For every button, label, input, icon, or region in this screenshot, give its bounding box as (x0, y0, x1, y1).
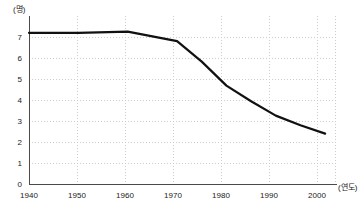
line-chart: (명) (연도) 7 6 5 4 3 2 1 0 1940 1950 1960 … (0, 0, 363, 212)
plot-area (0, 0, 363, 212)
grid-lines (29, 16, 335, 184)
data-series-line (29, 32, 325, 134)
